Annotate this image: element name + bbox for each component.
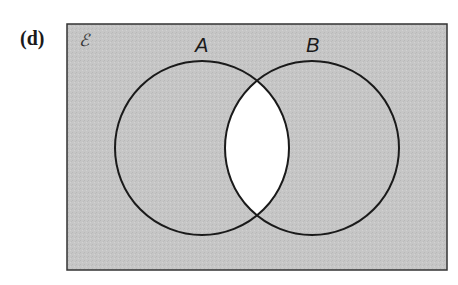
- set-b-label: B: [306, 34, 319, 56]
- venn-diagram: ℰ A B: [0, 0, 458, 285]
- set-a-label: A: [194, 34, 208, 56]
